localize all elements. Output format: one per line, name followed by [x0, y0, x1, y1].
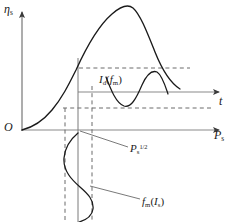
input-modulation-label: fm(Is) — [142, 196, 164, 209]
figure-canvas — [0, 0, 233, 222]
y-axis-label-subscript: s — [10, 8, 13, 17]
input-waveform-curve — [64, 133, 93, 222]
input-modulation-close-paren: ) — [160, 195, 164, 207]
transfer-var-label: Ps1/2 — [130, 143, 148, 156]
y-axis-label: ηs — [4, 3, 13, 17]
origin-label: O — [4, 121, 13, 133]
leader-line-ps-half — [80, 131, 128, 147]
origin-label-base: O — [4, 120, 13, 134]
output-current-label: Id(fm) — [99, 74, 122, 87]
transfer-var-superscript: 1/2 — [139, 143, 147, 150]
output-current-close-paren: ) — [118, 73, 122, 85]
p-axis-label: Ps — [214, 129, 224, 143]
transfer-characteristic-figure: ηs t Ps O Id(fm) Ps1/2 fm(Is) — [0, 0, 233, 222]
leader-line-fm — [90, 186, 140, 199]
t-axis-label: t — [219, 95, 222, 107]
transfer-var-base: P — [130, 142, 137, 154]
t-axis-label-base: t — [219, 94, 222, 108]
p-axis-label-subscript: s — [221, 134, 224, 143]
axes-group — [22, 12, 219, 131]
